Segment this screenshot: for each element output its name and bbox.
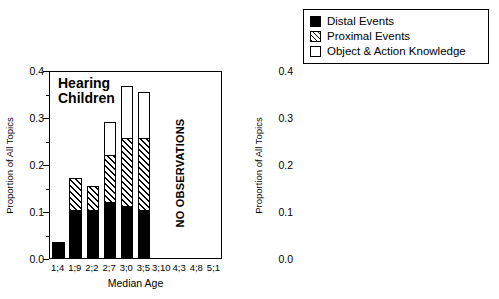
bar-segment-distal: [87, 210, 99, 258]
bar-segment-distal: [104, 202, 116, 258]
bar-segment-distal: [52, 242, 64, 258]
bar-segment-proximal: [138, 138, 150, 210]
bar-segment-proximal: [87, 186, 99, 210]
bar-segment-object: [138, 92, 150, 138]
y-axis-tick-labels-left: 0.00.10.20.30.4: [14, 66, 44, 264]
y-axis-tick-label: 0.3: [14, 112, 44, 124]
x-axis-tick-label: 1;4: [49, 262, 66, 276]
stacked-bar[interactable]: [52, 242, 64, 258]
bar-segment-object: [121, 86, 133, 138]
x-axis-title-left: Median Age: [49, 277, 222, 289]
stacked-bar[interactable]: [138, 92, 150, 258]
y-axis-tick-label: 0.1: [14, 206, 44, 218]
bar-slot[interactable]: [135, 72, 152, 258]
x-axis-tick-label: 2;2: [83, 262, 100, 276]
x-axis-tick-label: 3;5: [135, 262, 152, 276]
bar-segment-proximal: [104, 155, 116, 202]
no-observations-annotation: NO OBSERVATIONS: [173, 113, 187, 233]
y-axis-tick-label: 0.1: [263, 206, 293, 218]
bar-segment-proximal: [121, 138, 133, 206]
y-axis-tick-labels-right: 0.00.10.20.30.4: [263, 66, 293, 264]
y-axis-tick-label: 0.4: [14, 65, 44, 77]
bar-slot[interactable]: [187, 72, 204, 258]
bar-segment-distal: [121, 206, 133, 258]
bar-segment-proximal: [69, 178, 81, 209]
panel-deaf-children: Proportion of All Topics 0.00.10.20.30.4…: [249, 0, 499, 299]
x-axis-tick-label: 3;0: [118, 262, 135, 276]
bar-slot[interactable]: [204, 72, 221, 258]
bar-segment-distal: [138, 210, 150, 258]
panel-hearing-children: Proportion of All Topics 0.00.10.20.30.4…: [0, 0, 250, 299]
x-axis-tick-label: 4;8: [188, 262, 205, 276]
x-axis-tick-label: 1;9: [66, 262, 83, 276]
stacked-bar[interactable]: [69, 178, 81, 258]
x-axis-tick-label: 2;7: [101, 262, 118, 276]
y-axis-tick-label: 0.3: [263, 112, 293, 124]
y-axis-tick-label: 0.0: [14, 253, 44, 265]
bar-slot[interactable]: [118, 72, 135, 258]
y-axis-major-tick: [43, 259, 49, 260]
bar-segment-distal: [69, 210, 81, 258]
x-axis-tick-label: 3;10: [152, 262, 171, 276]
stacked-bar[interactable]: [121, 86, 133, 258]
y-axis-tick-label: 0.4: [263, 65, 293, 77]
y-axis-tick-label: 0.0: [263, 253, 293, 265]
y-axis-tick-label: 0.2: [263, 159, 293, 171]
panel-title-hearing: Hearing Children: [58, 76, 115, 106]
y-axis-tick-label: 0.2: [14, 159, 44, 171]
x-axis-tick-labels-left: 1;41;92;22;73;03;53;104;34;85;1: [49, 262, 222, 276]
bar-slot[interactable]: [153, 72, 170, 258]
x-axis-tick-label: 4;3: [171, 262, 188, 276]
stacked-bar[interactable]: [104, 122, 116, 258]
x-axis-tick-label: 5;1: [205, 262, 222, 276]
bar-segment-object: [104, 122, 116, 155]
stacked-bar[interactable]: [87, 186, 99, 258]
